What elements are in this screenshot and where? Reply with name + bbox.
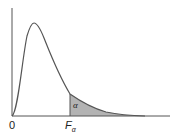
critical-value-label: Fα [65,119,76,133]
area-label: α [73,100,78,110]
critical-value-base: F [65,119,72,131]
f-distribution-diagram: 0 Fα α [0,0,175,136]
origin-label: 0 [9,119,15,131]
diagram-canvas [0,0,175,136]
critical-value-subscript: α [72,126,76,133]
